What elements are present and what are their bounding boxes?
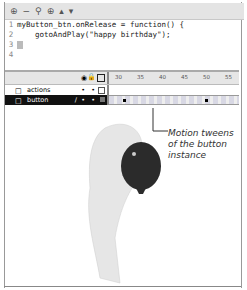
code-line: 2 gotoAndPlay("happy birthday"); (5, 30, 239, 40)
script-editor[interactable]: 1 myButton_btn.onRelease = function() { … (5, 20, 239, 64)
layer-name: button (27, 95, 48, 105)
outline-box[interactable] (100, 97, 105, 102)
layer-name: actions (27, 85, 50, 95)
code-line: 3 (5, 40, 239, 50)
pencil-icon: / (75, 95, 77, 105)
visibility-dot[interactable]: • (81, 85, 85, 95)
ruler-label: 55 (225, 74, 232, 80)
up-arrow-icon[interactable]: ▴ (59, 6, 64, 16)
text-cursor (17, 41, 23, 49)
outline-box[interactable] (98, 87, 105, 94)
callout-line: of the button (168, 139, 234, 150)
frames-actions[interactable] (109, 85, 239, 95)
code-line: 4 (5, 50, 239, 60)
down-arrow-icon[interactable]: ▾ (69, 6, 74, 16)
layer-actions[interactable]: □ actions • • (5, 85, 109, 95)
visibility-dot[interactable]: • (81, 95, 85, 105)
timeline-panel: ◉ 🔒 30 35 40 45 50 55 □ actions • • □ bu… (5, 70, 239, 112)
line-number: 3 (5, 40, 17, 50)
frame-ruler[interactable]: 30 35 40 45 50 55 (109, 72, 239, 84)
lock-icon[interactable]: 🔒 (87, 73, 96, 81)
balloon-icon (121, 142, 161, 190)
ruler-label: 40 (159, 74, 166, 80)
code-line: 1 myButton_btn.onRelease = function() { (5, 20, 239, 30)
line-number: 4 (5, 50, 17, 60)
ruler-label: 45 (181, 74, 188, 80)
keyframe[interactable] (205, 99, 208, 102)
find-icon[interactable]: ⚲ (35, 6, 42, 16)
callout-line: instance (168, 150, 234, 161)
code-text: myButton_btn.onRelease = function() { (17, 20, 184, 30)
ruler-label: 30 (115, 74, 122, 80)
line-number: 2 (5, 30, 17, 40)
ruler-label: 50 (203, 74, 210, 80)
line-number: 1 (5, 20, 17, 30)
layer-icon: □ (15, 96, 22, 106)
code-text: gotoAndPlay("happy birthday"); (17, 30, 171, 40)
delete-icon[interactable]: − (23, 6, 31, 16)
actions-toolbar: ⊕ − ⚲ ⊕ ▴ ▾ (5, 3, 244, 20)
target-icon[interactable]: ⊕ (47, 6, 55, 16)
add-statement-icon[interactable]: ⊕ (10, 6, 18, 16)
frames-button[interactable] (109, 95, 239, 105)
callout-label: Motion tweens of the button instance (168, 128, 234, 161)
layer-header: ◉ 🔒 (5, 72, 109, 84)
lock-dot[interactable]: • (91, 85, 95, 95)
bottom-border (4, 286, 241, 287)
outline-icon[interactable] (97, 74, 105, 82)
lock-dot[interactable]: • (91, 95, 95, 105)
callout-line: Motion tweens (168, 128, 234, 139)
ruler-label: 35 (137, 74, 144, 80)
layer-button[interactable]: □ button / • • (5, 95, 109, 105)
keyframe[interactable] (123, 99, 126, 102)
